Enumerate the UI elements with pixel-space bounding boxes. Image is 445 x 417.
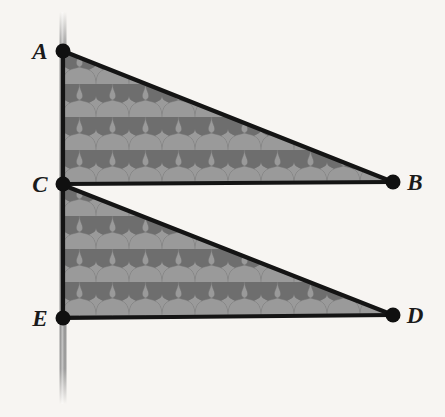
vertex-label-c: C	[32, 172, 48, 197]
segment-c-b	[63, 182, 393, 184]
vertex-dot-a	[56, 44, 71, 59]
vertex-dot-c	[56, 177, 71, 192]
vertex-dot-b	[386, 175, 401, 190]
vertex-dot-e	[56, 311, 71, 326]
vertex-label-a: A	[30, 39, 47, 64]
geometry-figure: A B C D E	[0, 0, 445, 417]
vertex-label-b: B	[406, 170, 422, 195]
vertex-label-e: E	[31, 306, 47, 331]
diagram-canvas: A B C D E	[0, 0, 445, 417]
vertex-label-d: D	[406, 303, 424, 328]
vertex-dot-d	[386, 308, 401, 323]
segment-e-d	[63, 315, 393, 318]
